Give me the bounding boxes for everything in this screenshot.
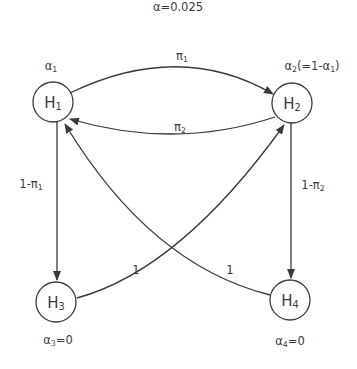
edge-h1-h2-symbol: π — [176, 49, 183, 63]
node-h1-name: H — [44, 94, 55, 112]
edge-h1-h3-label: 1-π1 — [19, 179, 42, 191]
edge-h1-h2-subscript: 1 — [183, 55, 188, 64]
edge-h2-h4-subscript: 2 — [320, 184, 325, 193]
h1-weight-symbol: α — [45, 59, 53, 73]
edge-h2-h4-label: 1-π2 — [301, 180, 324, 192]
edge-h2-h1-label: π2 — [174, 122, 186, 134]
node-h2-label: H2 — [283, 97, 301, 112]
h4-weight-symbol: α — [275, 334, 283, 348]
node-h2-name: H — [283, 95, 294, 113]
edge-h4-to-h1 — [65, 124, 270, 295]
node-h2-weight: α2(=1-α1) — [284, 61, 339, 73]
node-h4-name: H — [281, 292, 292, 310]
edge-h2-h4-symbol: 1-π — [301, 178, 319, 192]
alpha-title: α=0.025 — [153, 2, 203, 14]
node-h4-label: H4 — [281, 294, 299, 309]
h2-weight-symbol: α — [284, 59, 292, 73]
h3-weight-symbol: α — [43, 333, 51, 347]
node-h2-subscript: 2 — [295, 102, 301, 113]
edge-h2-h1-symbol: π — [174, 120, 181, 134]
edge-h3-h2-weight: 1 — [132, 263, 139, 277]
edge-h3-to-h2 — [77, 125, 284, 298]
edge-h1-h3-subscript: 1 — [38, 183, 43, 192]
h2-weight-suffix-close: ) — [335, 59, 340, 73]
alpha-title-text: α=0.025 — [153, 0, 203, 14]
node-h3-label: H3 — [47, 296, 65, 311]
node-h4-subscript: 4 — [293, 299, 299, 310]
edge-h4-h1-weight: 1 — [226, 263, 233, 277]
node-h3-subscript: 3 — [59, 301, 65, 312]
node-h4-weight: α4=0 — [275, 336, 305, 348]
edge-h3-h2-label: 1 — [132, 265, 139, 277]
h3-weight-value: =0 — [56, 333, 73, 347]
edge-h4-h1-label: 1 — [226, 265, 233, 277]
node-h3-name: H — [47, 294, 58, 312]
edge-h1-h3-symbol: 1-π — [19, 177, 37, 191]
node-h1-subscript: 1 — [56, 101, 62, 112]
node-h1-weight: α1 — [45, 61, 58, 73]
edge-h2-to-h1 — [70, 117, 275, 134]
h4-weight-value: =0 — [288, 334, 305, 348]
edge-h2-h1-subscript: 2 — [181, 126, 186, 135]
h1-weight-subscript: 1 — [52, 65, 57, 74]
edge-h1-to-h2 — [70, 67, 273, 94]
h2-weight-suffix: (=1-α — [297, 59, 330, 73]
node-h1-label: H1 — [44, 96, 62, 111]
edge-h1-h2-label: π1 — [176, 51, 188, 63]
node-h3-weight: α3=0 — [43, 335, 73, 347]
